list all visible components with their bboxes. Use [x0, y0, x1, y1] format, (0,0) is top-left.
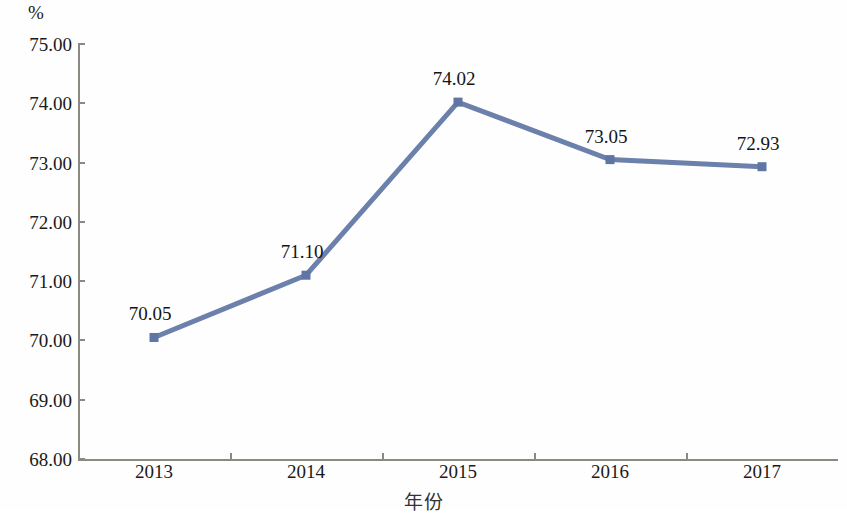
y-tick-mark	[78, 339, 85, 341]
data-point-marker	[302, 271, 311, 280]
y-tick-label: 75.00	[29, 35, 72, 54]
y-tick-label: 74.00	[29, 94, 72, 113]
y-tick-label: 69.00	[29, 390, 72, 409]
x-tick-label: 2015	[439, 462, 477, 481]
data-point-label: 73.05	[585, 127, 628, 146]
y-tick-mark	[78, 280, 85, 282]
x-tick-label: 2014	[287, 462, 325, 481]
y-tick-mark	[78, 162, 85, 164]
x-axis-title: 年份	[0, 487, 847, 514]
data-point-marker	[454, 98, 463, 107]
series-line	[154, 102, 762, 337]
y-tick-mark	[78, 102, 85, 104]
data-point-label: 71.10	[281, 242, 324, 261]
data-point-marker	[606, 155, 615, 164]
data-point-label: 74.02	[433, 69, 476, 88]
y-tick-label: 71.00	[29, 272, 72, 291]
x-tick-label: 2016	[591, 462, 629, 481]
data-point-label: 70.05	[129, 304, 172, 323]
y-tick-mark	[78, 43, 85, 45]
x-tick-mark	[382, 453, 384, 460]
y-tick-mark	[78, 458, 85, 460]
y-tick-label: 73.00	[29, 153, 72, 172]
data-point-marker	[758, 162, 767, 171]
data-point-label: 72.93	[737, 134, 780, 153]
y-tick-label: 68.00	[29, 450, 72, 469]
y-axis-line	[78, 44, 80, 460]
y-tick-mark	[78, 221, 85, 223]
x-tick-mark	[230, 453, 232, 460]
x-tick-label: 2013	[135, 462, 173, 481]
y-tick-mark	[78, 399, 85, 401]
x-tick-mark	[686, 453, 688, 460]
x-tick-label: 2017	[743, 462, 781, 481]
data-point-marker	[150, 333, 159, 342]
y-tick-label: 70.00	[29, 331, 72, 350]
y-tick-label: 72.00	[29, 212, 72, 231]
x-tick-mark	[534, 453, 536, 460]
y-axis-unit-label: %	[28, 2, 44, 24]
